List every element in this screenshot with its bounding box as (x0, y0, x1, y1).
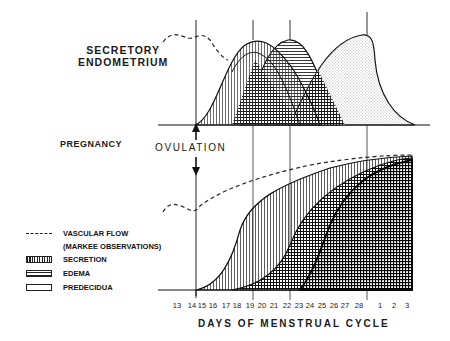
legend-item-secretion: SECRETION (26, 252, 161, 266)
x-tick: 1 (378, 301, 382, 310)
x-tick: 19 (246, 301, 254, 310)
ovulation-label: OVULATION (155, 142, 226, 153)
x-tick: 2 (392, 301, 396, 310)
legend-item-predecidua: PREDECIDUA (26, 280, 161, 294)
x-tick: 13 (173, 301, 181, 310)
x-tick: 26 (330, 301, 338, 310)
x-tick: 25 (318, 301, 326, 310)
predecidua-swatch-icon (26, 284, 52, 291)
x-tick: 21 (270, 301, 278, 310)
x-tick: 15 (198, 301, 206, 310)
x-tick: 22 (283, 301, 291, 310)
x-axis-title: DAYS OF MENSTRUAL CYCLE (198, 318, 390, 329)
legend-note: (MARKEE OBSERVATIONS) (63, 240, 161, 252)
pregnancy-label: PREGNANCY (60, 139, 122, 149)
x-tick: 28 (355, 301, 363, 310)
x-tick: 16 (209, 301, 217, 310)
legend-label-edema: EDEMA (63, 269, 90, 278)
legend-item-edema: EDEMA (26, 266, 161, 280)
x-tick: 23 (295, 301, 303, 310)
legend: VASCULAR FLOW (MARKEE OBSERVATIONS) SECR… (26, 226, 161, 294)
secretion-swatch-icon (26, 256, 52, 263)
x-tick: 18 (233, 301, 241, 310)
legend-label-predecidua: PREDECIDUA (63, 283, 113, 292)
x-tick: 27 (341, 301, 349, 310)
legend-label-vascular-flow: VASCULAR FLOW (63, 229, 128, 238)
secretory-line-2: ENDOMETRIUM (78, 56, 168, 68)
x-tick: 14 (188, 301, 196, 310)
edema-swatch-icon (26, 270, 52, 277)
secretory-line-1: SECRETORY (78, 44, 168, 56)
x-tick: 3 (405, 301, 409, 310)
legend-item-vascular-flow: VASCULAR FLOW (26, 226, 161, 240)
legend-label-secretion: SECRETION (63, 255, 107, 264)
x-tick: 24 (306, 301, 314, 310)
x-tick: 20 (258, 301, 266, 310)
secretory-endometrium-label: SECRETORY ENDOMETRIUM (78, 44, 168, 68)
x-tick: 17 (222, 301, 230, 310)
secretory-panel (158, 12, 430, 125)
dashed-line-swatch-icon (26, 233, 52, 234)
